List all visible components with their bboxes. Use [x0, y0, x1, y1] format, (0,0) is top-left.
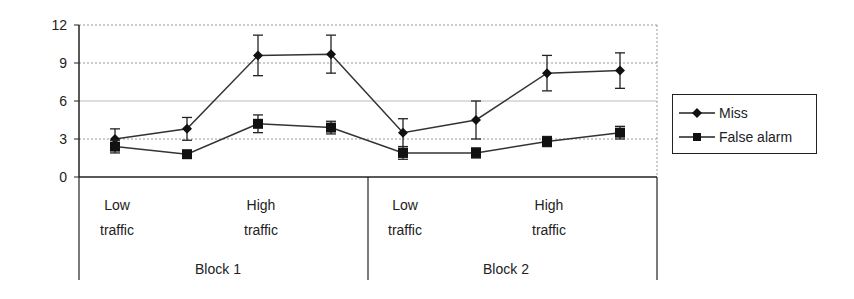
- legend-label: False alarm: [719, 129, 792, 145]
- legend: Miss False alarm: [672, 94, 817, 154]
- y-tick-label: 6: [59, 93, 67, 109]
- square-marker: [253, 119, 263, 129]
- diamond-marker-icon: [679, 107, 715, 119]
- diamond-marker: [542, 68, 552, 78]
- high-traffic-label: High: [535, 197, 564, 213]
- y-tick-label: 0: [59, 169, 67, 185]
- low-traffic-label: traffic: [388, 222, 422, 238]
- square-marker: [471, 148, 481, 158]
- square-marker: [326, 123, 336, 133]
- high-traffic-label: traffic: [244, 222, 278, 238]
- square-marker: [110, 142, 120, 152]
- low-traffic-label: Low: [104, 197, 131, 213]
- square-marker: [615, 128, 625, 138]
- series-line: [115, 54, 620, 139]
- diamond-marker: [615, 66, 625, 76]
- diamond-marker: [471, 115, 481, 125]
- block-label: Block 2: [483, 261, 529, 277]
- legend-item-miss: Miss: [679, 103, 748, 123]
- square-marker: [182, 149, 192, 159]
- data-series: [110, 35, 625, 159]
- y-tick-label: 12: [51, 17, 67, 33]
- legend-label: Miss: [719, 105, 748, 121]
- block-label: Block 1: [195, 261, 241, 277]
- square-marker-icon: [679, 131, 715, 143]
- high-traffic-label: traffic: [532, 222, 566, 238]
- y-tick-label: 9: [59, 55, 67, 71]
- y-tick-label: 3: [59, 131, 67, 147]
- y-axis-ticks: 036912: [51, 17, 79, 185]
- series-miss: [110, 35, 625, 149]
- square-marker: [398, 148, 408, 158]
- low-traffic-label: Low: [392, 197, 419, 213]
- legend-item-false-alarm: False alarm: [679, 127, 792, 147]
- low-traffic-label: traffic: [100, 222, 134, 238]
- square-marker: [542, 137, 552, 147]
- x-axis-categories: LowtrafficHightrafficBlock 1LowtrafficHi…: [100, 197, 566, 277]
- gridlines: [79, 25, 657, 139]
- high-traffic-label: High: [247, 197, 276, 213]
